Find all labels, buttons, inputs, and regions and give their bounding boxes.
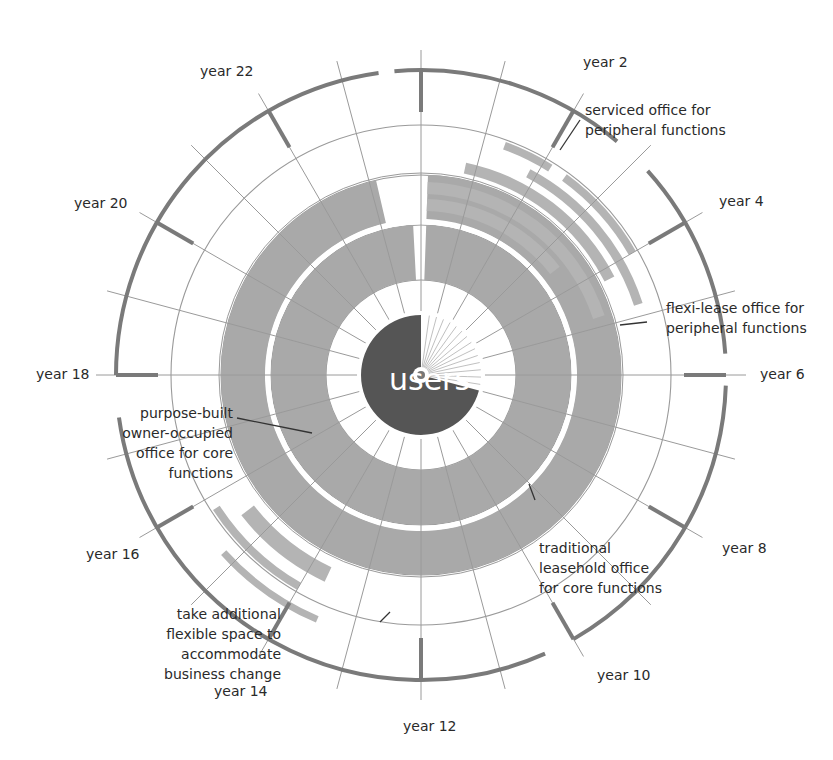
users-label: users xyxy=(389,362,470,397)
annotation-line: peripheral functions xyxy=(585,120,726,140)
annotation-line: business change xyxy=(164,664,281,684)
year-label-10: year 10 xyxy=(597,667,651,683)
annotation-line: for core functions xyxy=(539,578,662,598)
year-label-4: year 4 xyxy=(719,193,764,209)
year-label-6: year 6 xyxy=(760,366,805,382)
annotation-traditional-leasehold-office: traditional leasehold office for core fu… xyxy=(539,538,662,598)
annotation-serviced-office: serviced office for peripheral functions xyxy=(585,100,726,140)
annotation-line: office for core xyxy=(122,443,233,463)
year-label-16: year 16 xyxy=(86,546,140,562)
year-label-20: year 20 xyxy=(74,195,128,211)
year-label-22: year 22 xyxy=(200,63,254,79)
annotation-line: functions xyxy=(122,463,233,483)
annotation-line: purpose-built xyxy=(122,403,233,423)
year-label-14: year 14 xyxy=(214,683,268,699)
annotation-line: traditional xyxy=(539,538,662,558)
annotation-purpose-built-office: purpose-built owner-occupied office for … xyxy=(122,403,233,483)
annotation-line: serviced office for xyxy=(585,100,726,120)
annotation-line: leasehold office xyxy=(539,558,662,578)
annotation-line: owner-occupied xyxy=(122,423,233,443)
annotation-line: take additional xyxy=(164,604,281,624)
year-label-2: year 2 xyxy=(583,54,628,70)
annotation-line: accommodate xyxy=(164,644,281,664)
annotation-line: peripheral functions xyxy=(666,318,807,338)
year-label-8: year 8 xyxy=(722,540,767,556)
year-label-18: year 18 xyxy=(36,366,90,382)
annotation-flexi-lease-office: flexi-lease office for peripheral functi… xyxy=(666,298,807,338)
annotation-additional-flexible-space: take additional flexible space to accomm… xyxy=(164,604,281,684)
annotation-line: flexible space to xyxy=(164,624,281,644)
year-label-12: year 12 xyxy=(403,718,457,734)
annotation-line: flexi-lease office for xyxy=(666,298,807,318)
